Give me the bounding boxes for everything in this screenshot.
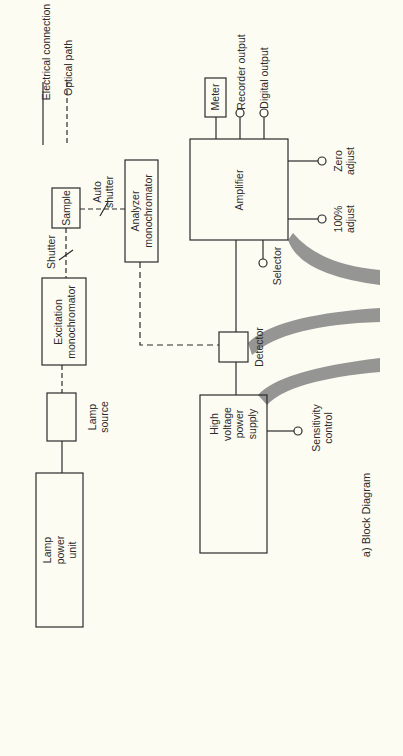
digital-output-label: Digital output [258, 47, 270, 108]
lamp-power-unit-label: Lamp power unit [41, 536, 79, 565]
figure-caption: a) Block Diagram [360, 473, 372, 557]
sensitivity-control-label: Sensitivity control [310, 404, 334, 451]
digital-output-terminal [260, 109, 268, 117]
meter-label: Meter [209, 84, 221, 111]
amplifier-label: Amplifier [233, 170, 245, 211]
band-amplifier [288, 233, 380, 285]
selector-knob [259, 259, 267, 267]
zero-adjust-label: Zero adjust [332, 147, 356, 175]
auto-shutter-label: Auto shutter [91, 176, 115, 208]
excitation-monochromator-label: Excitation monochromator [52, 285, 77, 359]
band-hv [258, 358, 380, 405]
sample-label: Sample [60, 190, 72, 226]
shutter-slash [59, 250, 73, 260]
hv-power-supply-label: High voltage power supply [208, 407, 258, 441]
analyzer-monochromator-label: Analyzer monochromator [129, 174, 154, 248]
shutter-label: Shutter [45, 235, 57, 269]
detector-box [219, 332, 248, 362]
sensitivity-control-knob [294, 427, 302, 435]
recorder-output-label: Recorder output [235, 34, 247, 109]
lamp-source-box [47, 393, 76, 441]
hundred-adjust-knob [318, 215, 326, 223]
band-detector [248, 308, 380, 355]
block-diagram [0, 0, 403, 756]
lamp-source-label: Lamp source [86, 401, 110, 433]
legend-electrical-label: Electrical connection [40, 4, 52, 100]
zero-adjust-knob [318, 157, 326, 165]
detector-label: Detector [253, 327, 265, 367]
hundred-adjust-label: 100% adjust [332, 205, 356, 233]
recorder-output-terminal [236, 109, 244, 117]
selector-label: Selector [271, 247, 283, 286]
legend-optical-label: Optical path [62, 40, 74, 96]
